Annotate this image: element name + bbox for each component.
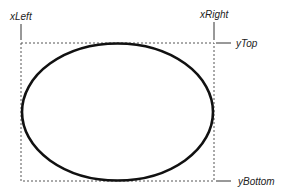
ellipse-bounds-diagram: xLeft xRight yTop yBottom xyxy=(0,0,288,196)
ellipse-shape xyxy=(22,44,213,181)
x-right-label: xRight xyxy=(199,9,230,20)
y-top-label: yTop xyxy=(235,38,258,49)
y-bottom-label: yBottom xyxy=(237,176,275,187)
x-left-label: xLeft xyxy=(9,11,33,22)
